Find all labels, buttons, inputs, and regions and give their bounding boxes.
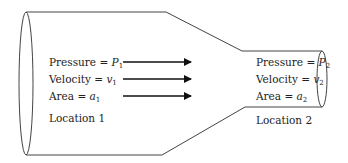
subscript: 1 <box>112 79 116 87</box>
subscript: 1 <box>119 62 123 70</box>
velocity-label: Velocity = <box>49 73 106 85</box>
area-label: Area = <box>49 90 90 102</box>
location2-name: Location 2 <box>256 114 312 126</box>
location2-area: Area = a2 <box>256 90 307 102</box>
subscript: 1 <box>96 96 100 104</box>
pressure-variable: P <box>112 56 119 68</box>
pressure-label: Pressure = <box>256 56 319 68</box>
pressure-variable: P <box>319 56 326 68</box>
location1-area: Area = a1 <box>49 90 100 102</box>
flow-arrows <box>123 62 191 96</box>
location1-pressure: Pressure = P1 <box>49 56 123 68</box>
velocity-label: Velocity = <box>256 73 313 85</box>
area-label: Area = <box>256 90 297 102</box>
pipe-flow-diagram: Pressure = P1 Velocity = v1 Area = a1 Lo… <box>0 0 348 163</box>
subscript: 2 <box>326 62 330 70</box>
subscript: 2 <box>303 96 307 104</box>
inlet-cross-section <box>19 12 33 155</box>
pressure-label: Pressure = <box>49 56 112 68</box>
subscript: 2 <box>319 79 323 87</box>
location1-velocity: Velocity = v1 <box>49 73 117 85</box>
location2-pressure: Pressure = P2 <box>256 56 330 68</box>
location1-name: Location 1 <box>49 112 105 124</box>
pipe-top-edge <box>26 12 322 51</box>
location2-velocity: Velocity = v2 <box>256 73 324 85</box>
